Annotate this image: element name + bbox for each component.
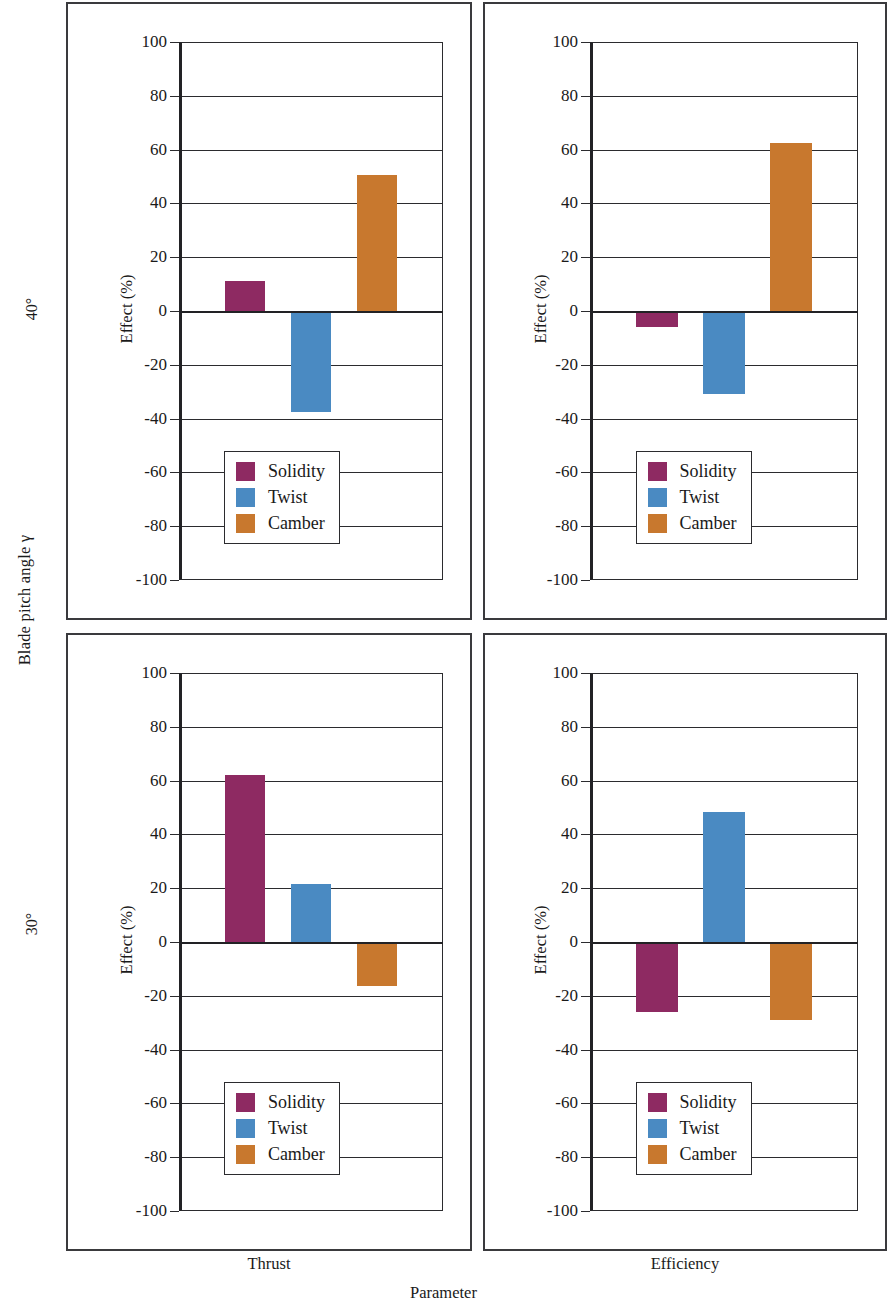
y-axis-tick-label: 100 xyxy=(142,663,168,683)
row-label-40deg: 40° xyxy=(4,300,60,318)
y-axis-tick xyxy=(170,257,179,258)
legend-item-solidity[interactable]: Solidity xyxy=(648,459,737,484)
legend-swatch-solidity-icon xyxy=(648,462,667,481)
y-axis-tick-label: -80 xyxy=(555,1147,578,1167)
row-label-30deg-text: 30° xyxy=(23,913,41,935)
y-axis-tick xyxy=(581,942,590,943)
y-axis-tick xyxy=(581,257,590,258)
y-axis-tick-label: 0 xyxy=(570,932,579,952)
y-axis-tick xyxy=(170,996,179,997)
y-axis-tick-label: -80 xyxy=(144,516,167,536)
gridline xyxy=(179,96,443,97)
legend-swatch-twist-icon xyxy=(236,488,255,507)
legend-item-camber[interactable]: Camber xyxy=(236,511,325,536)
y-axis-tick xyxy=(170,673,179,674)
y-axis-tick-label: -40 xyxy=(555,409,578,429)
legend-item-camber[interactable]: Camber xyxy=(648,511,737,536)
y-axis-tick xyxy=(581,834,590,835)
legend-item-camber[interactable]: Camber xyxy=(236,1142,325,1167)
legend-item-solidity[interactable]: Solidity xyxy=(236,1090,325,1115)
legend-label: Solidity xyxy=(680,1093,737,1111)
y-axis-tick xyxy=(581,727,590,728)
y-axis-tick xyxy=(170,1103,179,1104)
y-axis-tick-label: 80 xyxy=(150,717,167,737)
y-axis-title: Effect (%) xyxy=(117,888,137,993)
y-axis-tick-label: 0 xyxy=(570,301,579,321)
legend-label: Solidity xyxy=(680,462,737,480)
y-axis-tick xyxy=(581,96,590,97)
y-axis-tick xyxy=(581,1050,590,1051)
row-label-40deg-text: 40° xyxy=(23,298,41,320)
y-axis-tick-label: 100 xyxy=(142,32,168,52)
legend-swatch-solidity-icon xyxy=(236,462,255,481)
plot-area: 100806040200-20-40-60-80-100SolidityTwis… xyxy=(179,42,443,580)
gridline xyxy=(590,150,858,151)
y-axis-tick-label: -100 xyxy=(547,570,578,590)
y-axis-tick xyxy=(581,1157,590,1158)
y-axis-tick-label: -40 xyxy=(144,409,167,429)
y-axis-tick-label: 20 xyxy=(150,878,167,898)
legend-swatch-twist-icon xyxy=(236,1119,255,1138)
y-axis-tick-label: -20 xyxy=(144,355,167,375)
y-axis-tick-label: 60 xyxy=(561,771,578,791)
row-axis-title: Blade pitch angle γ xyxy=(15,480,35,720)
legend-label: Twist xyxy=(268,488,308,506)
y-axis-tick-label: 40 xyxy=(150,824,167,844)
y-axis-tick xyxy=(170,472,179,473)
gridline xyxy=(179,834,443,835)
legend-label: Camber xyxy=(268,514,325,532)
y-axis-tick xyxy=(170,942,179,943)
y-axis-tick xyxy=(170,42,179,43)
legend-swatch-camber-icon xyxy=(236,514,255,533)
plot-area: 100806040200-20-40-60-80-100SolidityTwis… xyxy=(590,673,858,1211)
plot-area: 100806040200-20-40-60-80-100SolidityTwis… xyxy=(179,673,443,1211)
bar-camber xyxy=(770,942,812,1020)
bar-solidity xyxy=(636,942,678,1012)
legend-item-twist[interactable]: Twist xyxy=(236,485,325,510)
gridline xyxy=(590,257,858,258)
zero-line xyxy=(590,311,858,313)
legend-item-solidity[interactable]: Solidity xyxy=(648,1090,737,1115)
gridline xyxy=(179,781,443,782)
y-axis-tick-label: 20 xyxy=(561,878,578,898)
legend-item-twist[interactable]: Twist xyxy=(648,485,737,510)
bar-solidity xyxy=(636,311,678,327)
y-axis-title: Effect (%) xyxy=(531,260,551,359)
zero-line xyxy=(590,942,858,944)
y-axis-tick-label: -100 xyxy=(547,1201,578,1221)
y-axis-tick-label: -60 xyxy=(144,1093,167,1113)
legend-item-twist[interactable]: Twist xyxy=(648,1116,737,1141)
y-axis-tick xyxy=(581,365,590,366)
gridline xyxy=(590,96,858,97)
legend-item-twist[interactable]: Twist xyxy=(236,1116,325,1141)
gridline xyxy=(179,203,443,204)
y-axis-tick-label: 80 xyxy=(561,86,578,106)
y-axis-tick xyxy=(170,203,179,204)
bar-camber xyxy=(357,942,398,986)
y-axis-tick-label: 100 xyxy=(553,663,579,683)
gridline xyxy=(179,257,443,258)
y-axis-tick-label: 80 xyxy=(150,86,167,106)
y-axis-tick xyxy=(581,526,590,527)
y-axis-tick-label: 80 xyxy=(561,717,578,737)
y-axis-tick xyxy=(581,419,590,420)
y-axis-tick-label: -100 xyxy=(136,1201,167,1221)
legend-item-camber[interactable]: Camber xyxy=(648,1142,737,1167)
chart-panel-top-right: 100806040200-20-40-60-80-100SolidityTwis… xyxy=(483,2,887,620)
y-axis-tick-label: 40 xyxy=(561,824,578,844)
y-axis-title: Effect (%) xyxy=(531,891,551,990)
y-axis-tick xyxy=(170,1157,179,1158)
legend-item-solidity[interactable]: Solidity xyxy=(236,459,325,484)
y-axis-tick-label: -80 xyxy=(555,516,578,536)
figure-root: Blade pitch angle γ 40° 30° 100806040200… xyxy=(0,0,887,1306)
legend-swatch-twist-icon xyxy=(648,488,667,507)
y-axis-tick xyxy=(170,1050,179,1051)
y-axis-tick-label: 60 xyxy=(150,771,167,791)
y-axis-tick-label: 60 xyxy=(561,140,578,160)
legend-label: Camber xyxy=(680,1145,737,1163)
y-axis-tick xyxy=(581,203,590,204)
gridline xyxy=(590,781,858,782)
y-axis-tick-label: -100 xyxy=(136,570,167,590)
y-axis-tick-label: 60 xyxy=(150,140,167,160)
y-axis-tick-label: -40 xyxy=(144,1040,167,1060)
